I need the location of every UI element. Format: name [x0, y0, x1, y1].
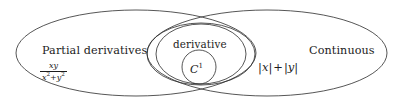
denominator-exponent-y: 2 [61, 71, 65, 77]
label-derivative: derivative [173, 39, 227, 49]
ellipse-derivative [156, 24, 246, 84]
euler-diagram-figure: Partial derivatives xy x2+y2 derivative … [0, 0, 403, 106]
ellipse-derivative-outer [147, 23, 255, 85]
denominator-plus: + [50, 73, 57, 82]
formula-partial-derivatives-example: xy x2+y2 [40, 62, 67, 82]
fraction-denominator: x2+y2 [40, 72, 67, 82]
formula-continuous-example: |x|+|y| [258, 62, 298, 74]
abs-plus: + [272, 60, 284, 74]
label-partial-derivatives: Partial derivatives [42, 45, 147, 56]
c1-superscript: 1 [198, 61, 203, 70]
fraction: xy x2+y2 [40, 62, 67, 82]
abs-close-y: | [294, 60, 298, 74]
label-c1: C1 [190, 62, 203, 75]
label-continuous: Continuous [309, 45, 375, 56]
